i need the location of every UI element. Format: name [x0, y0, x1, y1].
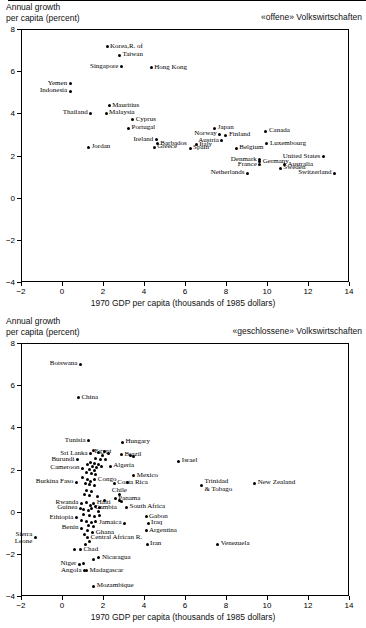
scatter-point-label: Angola	[61, 567, 82, 575]
y-tick-label: 6	[11, 381, 15, 390]
scatter-point	[93, 478, 96, 481]
scatter-point	[89, 112, 92, 115]
figure-page: Annual growth per capita (percent) «offe…	[0, 0, 366, 628]
scatter-point-label: Belgium	[239, 144, 263, 152]
scatter-point	[85, 501, 88, 504]
plot-area-bottom: BotswanaChinaTunisiaHungarySri LankaBraz…	[21, 343, 349, 596]
x-tick-mark	[308, 282, 309, 286]
scatter-point	[79, 548, 82, 551]
x-tick-mark	[267, 596, 268, 600]
scatter-point	[81, 476, 84, 479]
scatter-point	[83, 493, 86, 496]
scatter-point-label: Hungary	[125, 438, 150, 446]
y-axis-title-top: Annual growth per capita (percent)	[6, 2, 80, 23]
scatter-point	[145, 515, 148, 518]
scatter-point-label: Iran	[150, 541, 161, 549]
scatter-point-label: Jordan	[92, 143, 111, 151]
y-tick-mark	[17, 385, 21, 386]
scatter-point	[120, 65, 123, 68]
scatter-point	[100, 465, 103, 468]
y-tick-label: 4	[11, 109, 15, 118]
y-tick-label: 2	[11, 151, 15, 160]
scatter-point-label: Benin	[62, 525, 79, 533]
scatter-point-label: Taiwan	[122, 52, 143, 60]
scatter-point	[84, 482, 87, 485]
scatter-point	[108, 104, 111, 107]
scatter-point	[86, 463, 89, 466]
scatter-point-label: Nicaragua	[102, 554, 131, 562]
x-tick-label: −2	[16, 601, 25, 610]
scatter-point-label: Venezuela	[221, 541, 250, 549]
scatter-point-label: France	[238, 161, 257, 169]
scatter-point	[153, 146, 156, 149]
x-tick-mark	[349, 282, 350, 286]
x-tick-label: 4	[142, 601, 146, 610]
scatter-point	[91, 465, 94, 468]
scatter-point	[145, 529, 148, 532]
scatter-point-label: Greece	[157, 143, 177, 151]
y-tick-mark	[17, 512, 21, 513]
scatter-point	[235, 147, 238, 150]
x-tick-mark	[267, 282, 268, 286]
x-tick-label: 6	[183, 601, 187, 610]
scatter-point	[90, 472, 93, 475]
scatter-point	[253, 482, 256, 485]
scatter-point	[94, 520, 97, 523]
scatter-point	[69, 82, 72, 85]
scatter-point	[189, 147, 192, 150]
x-tick-mark	[62, 596, 63, 600]
x-tick-label: 12	[304, 287, 313, 296]
x-axis-title-top: 1970 GDP per capita (thousands of 1985 d…	[0, 298, 366, 308]
scatter-point-label: Luxembourg	[270, 140, 306, 148]
scatter-point-label: Cyprus	[136, 116, 156, 124]
scatter-point-label: Gambia	[95, 505, 117, 513]
scatter-point	[81, 467, 84, 470]
y-tick-mark	[17, 29, 21, 30]
x-tick-label: 4	[142, 287, 146, 296]
chart-open-economies: Annual growth per capita (percent) «offe…	[0, 0, 366, 314]
scatter-point-label: Ethiopia	[50, 514, 74, 522]
scatter-point-label: Thailand	[63, 110, 88, 118]
scatter-point-label: Mozambique	[97, 583, 134, 591]
header-rule	[8, 0, 366, 1]
y-tick-label: 8	[11, 339, 15, 348]
scatter-point	[216, 543, 219, 546]
x-tick-label: 2	[101, 601, 105, 610]
chart-closed-economies: Annual growth per capita (percent) «gesc…	[0, 314, 366, 628]
scatter-point-label: Burkina Faso	[36, 478, 74, 486]
plot-area-top: Korea,R. ofTaiwanSingaporeHong KongYemen…	[21, 29, 349, 282]
x-tick-mark	[21, 596, 22, 600]
y-tick-mark	[17, 198, 21, 199]
scatter-point	[265, 142, 268, 145]
scatter-point	[77, 396, 80, 399]
scatter-point	[93, 462, 96, 465]
y-tick-label: −4	[6, 278, 15, 287]
scatter-point	[87, 439, 90, 442]
scatter-point-label: Burundi	[51, 456, 74, 464]
scatter-point	[118, 54, 121, 57]
scatter-point	[76, 458, 79, 461]
scatter-point	[200, 484, 203, 487]
scatter-point	[94, 457, 97, 460]
scatter-point-label: Ireland	[133, 136, 153, 144]
scatter-point	[80, 519, 83, 522]
scatter-point	[79, 363, 82, 366]
x-tick-mark	[349, 596, 350, 600]
scatter-point	[95, 466, 98, 469]
scatter-point-label: Malaysia	[109, 110, 135, 118]
y-tick-label: −2	[6, 235, 15, 244]
scatter-point-label: Madagascar	[90, 567, 124, 575]
scatter-point-label: Korea,R. of	[110, 43, 143, 51]
scatter-point	[87, 524, 90, 527]
y-tick-label: −2	[6, 549, 15, 558]
scatter-point	[86, 529, 89, 532]
scatter-point	[155, 138, 158, 141]
scatter-point	[93, 515, 96, 518]
scatter-point	[82, 562, 85, 565]
scatter-point-label: Finland	[229, 132, 250, 140]
scatter-point	[109, 465, 112, 468]
scatter-point-label: Portugal	[132, 124, 156, 132]
scatter-point	[82, 513, 85, 516]
x-tick-label: 14	[345, 601, 354, 610]
scatter-point	[88, 514, 91, 517]
